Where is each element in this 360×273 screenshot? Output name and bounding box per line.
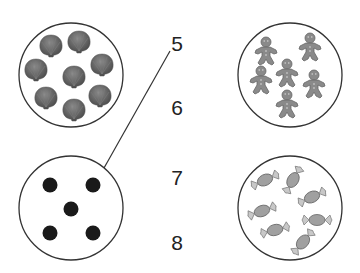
group-candies[interactable] <box>238 156 342 260</box>
dot-icon <box>43 178 58 193</box>
dot-icon <box>43 226 58 241</box>
number-6[interactable]: 6 <box>165 97 189 118</box>
group-shells[interactable] <box>19 23 123 127</box>
number-8[interactable]: 8 <box>165 232 189 253</box>
number-5[interactable]: 5 <box>165 33 189 54</box>
circle-outline <box>238 156 342 260</box>
dot-icon <box>86 178 101 193</box>
dot-icon <box>64 202 79 217</box>
matching-worksheet: 5 6 7 8 <box>0 0 360 273</box>
dot-icon <box>86 226 101 241</box>
group-gingerbread[interactable] <box>238 23 342 127</box>
group-dots[interactable] <box>19 156 123 260</box>
number-7[interactable]: 7 <box>165 167 189 188</box>
